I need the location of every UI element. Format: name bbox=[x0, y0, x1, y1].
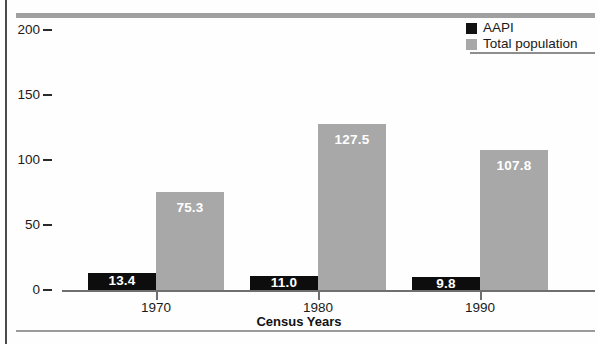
bar-aapi-1990[interactable]: 9.8 bbox=[412, 277, 480, 290]
bar-value-label: 75.3 bbox=[156, 200, 224, 215]
bar-aapi-1980[interactable]: 11.0 bbox=[250, 276, 318, 290]
bar-total-population-1970[interactable]: 75.3 bbox=[156, 192, 224, 290]
x-axis-tick-mark bbox=[318, 291, 320, 300]
bar-aapi-1970[interactable]: 13.4 bbox=[88, 273, 156, 290]
bar-total-population-1990[interactable]: 107.8 bbox=[480, 150, 548, 290]
bars-layer: 13.475.311.0127.59.8107.8 bbox=[0, 0, 598, 290]
chart-figure: AAPITotal population 050100150200 13.475… bbox=[0, 0, 598, 344]
x-axis-baseline bbox=[62, 290, 595, 292]
x-axis-tick-mark bbox=[480, 291, 482, 300]
bar-total-population-1980[interactable]: 127.5 bbox=[318, 124, 386, 290]
plot-area: 050100150200 13.475.311.0127.59.8107.8 1… bbox=[0, 0, 598, 344]
bar-value-label: 107.8 bbox=[480, 158, 548, 173]
x-axis-title: Census Years bbox=[0, 314, 598, 329]
x-axis-tick-mark bbox=[156, 291, 158, 300]
bar-value-label: 13.4 bbox=[88, 273, 156, 288]
bar-value-label: 127.5 bbox=[318, 132, 386, 147]
x-axis-label-1980: 1980 bbox=[278, 300, 358, 315]
bar-value-label: 11.0 bbox=[250, 275, 318, 290]
x-axis-label-1990: 1990 bbox=[440, 300, 520, 315]
bar-value-label: 9.8 bbox=[412, 276, 480, 291]
x-axis-label-1970: 1970 bbox=[116, 300, 196, 315]
